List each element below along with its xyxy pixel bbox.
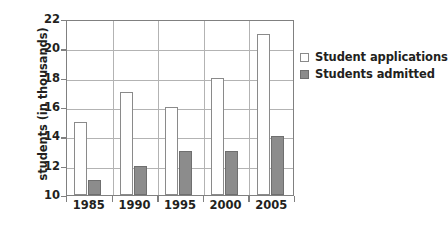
bar-applications-2005 xyxy=(257,34,270,195)
legend-item-label: Student applications xyxy=(315,50,448,64)
x-axis-tick-mark xyxy=(66,196,67,202)
y-axis-tick-label: 18 xyxy=(36,73,60,85)
legend-item-label: Students admitted xyxy=(315,67,435,81)
y-axis-tick-label: 22 xyxy=(36,14,60,26)
bar-applications-1990 xyxy=(120,92,133,195)
y-axis-tick-mark xyxy=(61,137,66,138)
y-axis-tick-label: 14 xyxy=(36,131,60,143)
y-axis-tick-mark xyxy=(61,108,66,109)
legend-item[interactable]: Student applications xyxy=(300,50,448,64)
x-axis-tick-mark xyxy=(294,196,295,202)
bar-admitted-1995 xyxy=(179,151,192,195)
filled-square-swatch xyxy=(300,70,309,79)
open-square-swatch xyxy=(300,53,309,62)
legend-item[interactable]: Students admitted xyxy=(300,67,448,81)
bar-applications-1985 xyxy=(74,122,87,195)
y-axis-tick-mark xyxy=(61,20,66,21)
x-axis-tick-label: 1995 xyxy=(157,200,203,212)
bar-applications-1995 xyxy=(165,107,178,195)
bar-group xyxy=(204,21,250,195)
x-axis-tick-label: 2005 xyxy=(248,200,294,212)
bar-admitted-1985 xyxy=(88,180,101,195)
y-axis-tick-label: 10 xyxy=(36,190,60,202)
y-axis-tick-label: 16 xyxy=(36,102,60,114)
y-axis-tick-labels: 10121416182022 xyxy=(36,0,60,237)
bar-group xyxy=(249,21,295,195)
y-axis-tick-mark xyxy=(61,79,66,80)
bar-admitted-2000 xyxy=(225,151,238,195)
x-axis-tick-label: 1985 xyxy=(66,200,112,212)
x-axis-tick-label: 2000 xyxy=(203,200,249,212)
y-axis-tick-mark xyxy=(61,49,66,50)
x-axis-tick-label: 1990 xyxy=(111,200,157,212)
chart-legend: Student applicationsStudents admitted xyxy=(300,50,448,84)
bar-admitted-1990 xyxy=(134,166,147,195)
bar-applications-2000 xyxy=(211,78,224,195)
bar-group xyxy=(158,21,204,195)
y-axis-tick-label: 20 xyxy=(36,43,60,55)
bar-admitted-2005 xyxy=(271,136,284,195)
bar-chart-figure: students (in thousands) 10121416182022 S… xyxy=(0,0,448,237)
plot-area xyxy=(66,20,294,196)
y-axis-tick-mark xyxy=(61,167,66,168)
bar-group xyxy=(67,21,113,195)
bar-group xyxy=(113,21,159,195)
y-axis-tick-label: 12 xyxy=(36,161,60,173)
